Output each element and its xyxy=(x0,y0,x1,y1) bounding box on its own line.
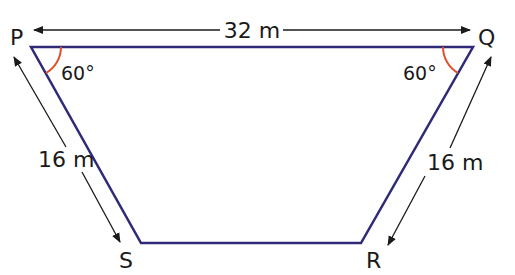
angle-arc-p xyxy=(46,47,61,73)
vertex-label-r: R xyxy=(366,248,381,273)
trapezium-diagram: P Q S R 32 m 16 m 16 m 60° 60° xyxy=(0,0,515,275)
vertex-label-p: P xyxy=(10,25,23,50)
top-dimension-label: 32 m xyxy=(224,18,280,43)
left-dimension-arrow-up xyxy=(14,57,66,147)
angle-label-q: 60° xyxy=(403,62,437,84)
vertex-label-q: Q xyxy=(478,25,495,50)
left-dimension-label: 16 m xyxy=(38,147,94,172)
angle-arc-q xyxy=(443,47,458,73)
angle-label-p: 60° xyxy=(61,62,95,84)
vertex-label-s: S xyxy=(119,248,133,273)
right-dimension-label: 16 m xyxy=(427,150,483,175)
left-dimension-arrow-down xyxy=(82,172,120,242)
